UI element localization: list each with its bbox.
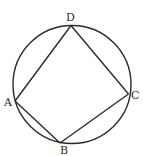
vertex-label-a: A <box>3 96 13 109</box>
vertex-label-c: C <box>131 89 139 102</box>
side-dc <box>71 26 129 95</box>
circumscribed-circle <box>13 26 131 144</box>
vertex-label-d: D <box>66 11 75 24</box>
cyclic-quadrilateral-diagram: A B C D <box>0 0 143 156</box>
side-ba <box>15 101 60 143</box>
side-ad <box>15 26 71 102</box>
side-cb <box>60 94 129 143</box>
vertex-label-b: B <box>60 144 68 156</box>
